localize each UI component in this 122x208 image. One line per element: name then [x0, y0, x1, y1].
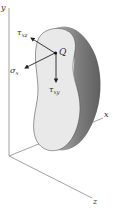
x-axis-label: x [104, 110, 109, 119]
y-axis-label: y [0, 3, 6, 12]
z-axis-label: z [92, 197, 98, 206]
point-q-dot [54, 51, 57, 54]
z-axis [9, 156, 92, 198]
point-q-label: Q [59, 47, 67, 57]
tau-xz-label: τxz [17, 28, 28, 38]
sigma-x-label: σx [10, 66, 19, 76]
stress-diagram: y x z Q τxz σx τxy [0, 0, 122, 208]
